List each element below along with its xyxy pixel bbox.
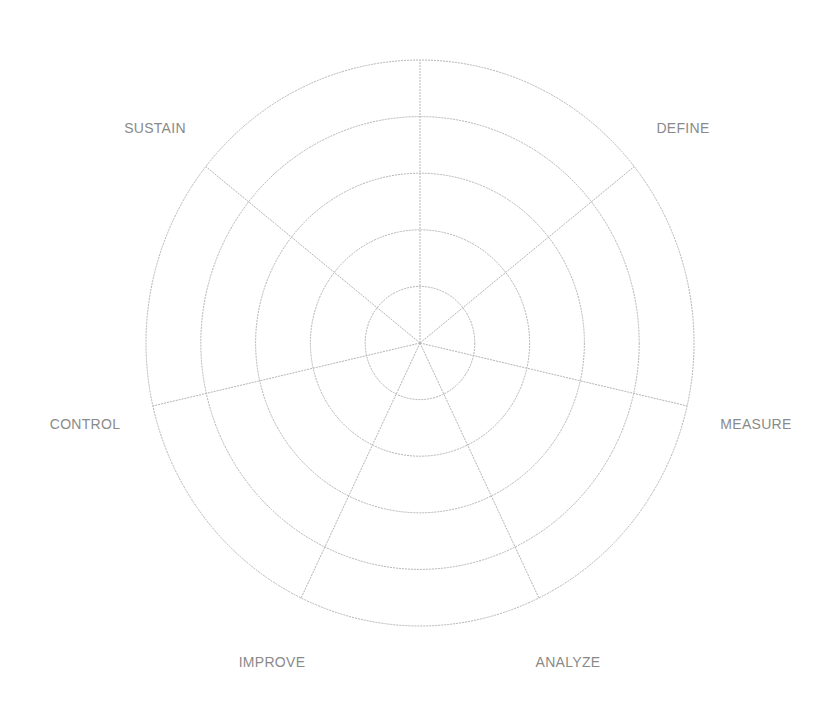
radar-spoke [420,167,634,343]
axis-label-measure: MEASURE [720,416,791,432]
axis-label-control: CONTROL [50,416,121,432]
radar-grid [0,0,831,701]
radar-spoke [420,343,539,598]
axis-label-define: DEFINE [656,120,709,136]
radar-spoke [420,343,687,406]
radar-spokes [153,60,687,598]
radar-spoke [301,343,420,598]
axis-label-improve: IMPROVE [239,654,306,670]
radar-spoke [153,343,420,406]
axis-label-sustain: SUSTAIN [124,120,186,136]
axis-label-analyze: ANALYZE [536,654,601,670]
radar-spoke [206,167,420,343]
